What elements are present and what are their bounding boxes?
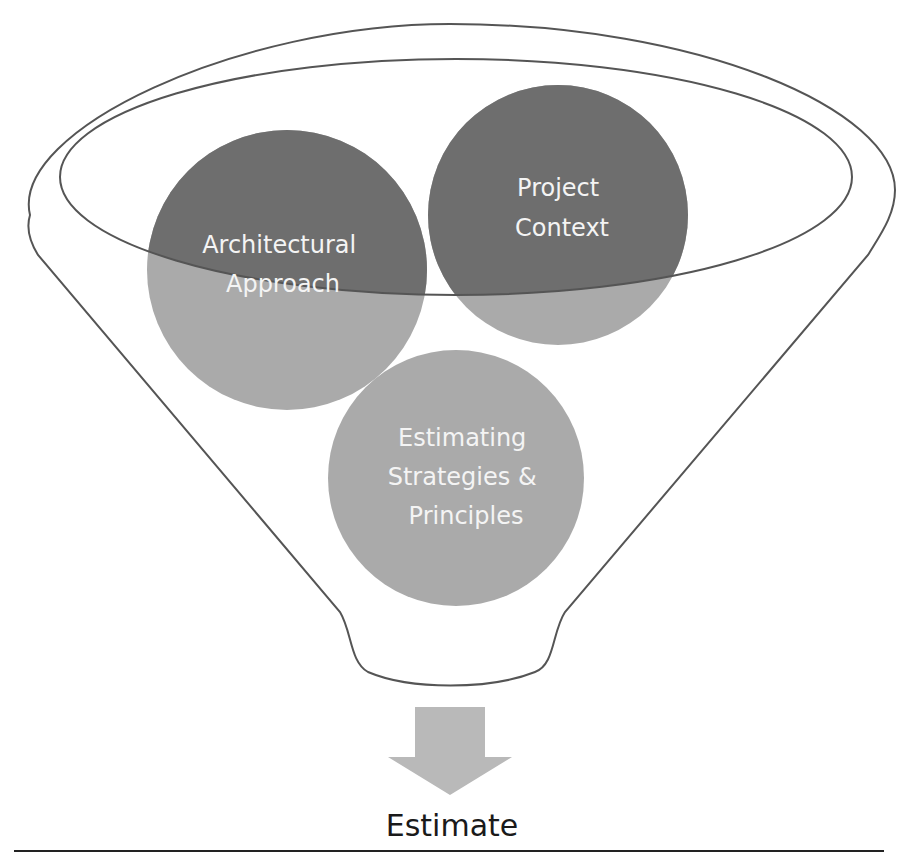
arrow-down-icon <box>388 707 512 795</box>
funnel-diagram: Architectural Approach Project Context E… <box>0 0 902 865</box>
label-estimating-strategies: Estimating Strategies & Principles <box>388 424 545 530</box>
output-label-estimate: Estimate <box>386 808 519 843</box>
